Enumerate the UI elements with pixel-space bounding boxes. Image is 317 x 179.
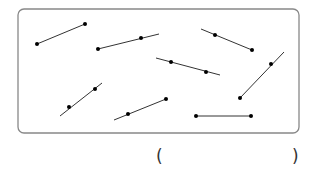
point-dot bbox=[96, 47, 100, 51]
point-dot bbox=[204, 70, 208, 74]
figures-group bbox=[35, 22, 284, 120]
figure-segment bbox=[194, 114, 253, 118]
point-dot bbox=[93, 87, 97, 91]
point-dot bbox=[83, 22, 87, 26]
figure-frame bbox=[18, 9, 299, 133]
figure-ray bbox=[238, 52, 284, 100]
point-dot bbox=[126, 112, 130, 116]
ray-line bbox=[114, 99, 166, 120]
answer-blank[interactable] bbox=[172, 146, 287, 166]
segment-line bbox=[37, 24, 85, 44]
figure-line bbox=[60, 83, 102, 116]
ray-line bbox=[98, 34, 159, 49]
figure-segment bbox=[35, 22, 87, 46]
line-line bbox=[156, 58, 220, 75]
point-dot bbox=[250, 48, 254, 52]
figure-ray bbox=[96, 34, 159, 51]
figure-ray bbox=[201, 29, 254, 52]
ray-line bbox=[201, 29, 252, 50]
point-dot bbox=[164, 97, 168, 101]
point-dot bbox=[35, 42, 39, 46]
figure-ray bbox=[114, 97, 168, 120]
answer-paren-open: ( bbox=[156, 146, 163, 166]
point-dot bbox=[249, 114, 253, 118]
point-dot bbox=[269, 62, 273, 66]
point-dot bbox=[67, 105, 71, 109]
point-dot bbox=[213, 33, 217, 37]
point-dot bbox=[194, 114, 198, 118]
ray-line bbox=[240, 52, 284, 98]
figure-line bbox=[156, 58, 220, 75]
answer-paren-close: ) bbox=[292, 146, 299, 166]
point-dot bbox=[169, 60, 173, 64]
point-dot bbox=[139, 36, 143, 40]
point-dot bbox=[238, 96, 242, 100]
